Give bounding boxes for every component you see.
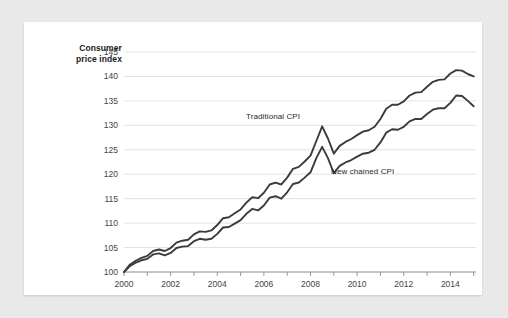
annotation-new-chained-cpi: New chained CPI bbox=[331, 167, 394, 176]
svg-text:2004: 2004 bbox=[208, 279, 227, 289]
svg-text:110: 110 bbox=[104, 218, 118, 228]
svg-text:2010: 2010 bbox=[348, 279, 367, 289]
chart-card: Consumer price index 1001051101151201251… bbox=[24, 22, 482, 295]
svg-text:2006: 2006 bbox=[254, 279, 273, 289]
series-lines bbox=[124, 70, 474, 272]
svg-text:100: 100 bbox=[104, 267, 118, 277]
svg-text:2002: 2002 bbox=[161, 279, 180, 289]
annotation-traditional-cpi: Traditional CPI bbox=[246, 112, 300, 121]
svg-text:2014: 2014 bbox=[441, 279, 460, 289]
svg-text:130: 130 bbox=[104, 120, 118, 130]
svg-text:125: 125 bbox=[104, 145, 118, 155]
svg-text:145: 145 bbox=[104, 47, 118, 57]
svg-text:115: 115 bbox=[104, 194, 118, 204]
y-tick-labels: 100105110115120125130135140145 bbox=[104, 47, 118, 277]
chart-svg: 100105110115120125130135140145 200020022… bbox=[24, 22, 482, 295]
gridlines bbox=[124, 52, 476, 272]
svg-text:105: 105 bbox=[104, 243, 118, 253]
svg-text:2012: 2012 bbox=[394, 279, 413, 289]
line-chart: 100105110115120125130135140145 200020022… bbox=[24, 22, 482, 295]
svg-text:140: 140 bbox=[104, 71, 118, 81]
x-axis bbox=[124, 272, 476, 276]
svg-text:2008: 2008 bbox=[301, 279, 320, 289]
svg-text:135: 135 bbox=[104, 96, 118, 106]
svg-text:2000: 2000 bbox=[115, 279, 134, 289]
svg-text:120: 120 bbox=[104, 169, 118, 179]
x-tick-labels: 20002002200420062008201020122014 bbox=[115, 279, 461, 289]
screenshot-root: Consumer price index 1001051101151201251… bbox=[0, 0, 508, 318]
